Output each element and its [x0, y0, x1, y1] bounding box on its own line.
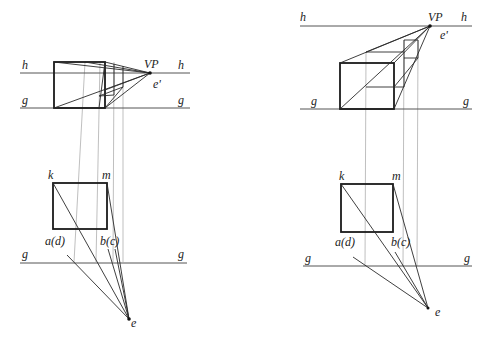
left-cube-front-face — [54, 62, 105, 108]
left-visual-rays — [53, 183, 129, 319]
left-horizon-label-right: h — [178, 58, 184, 72]
right-plan-square — [341, 184, 393, 232]
left-plan-square — [53, 183, 107, 229]
left-ground-label-right: g — [178, 93, 184, 107]
right-ground-label-right: g — [463, 94, 469, 108]
right-plan-ground-label-right: g — [464, 251, 470, 265]
left-plan-ground-label-right: g — [178, 247, 184, 261]
right-ground-label-left: g — [311, 94, 317, 108]
right-eye-point — [427, 307, 430, 310]
left-plan-ground-label-left: g — [22, 247, 28, 261]
right-horizon-label-left: h — [300, 10, 306, 24]
right-horizon-label-right: h — [461, 10, 467, 24]
right-cube-receding-lines — [340, 26, 430, 109]
left-ground-label-left: g — [22, 93, 28, 107]
left-eye-prime-label: e' — [153, 77, 161, 91]
left-cube-receding-lines — [54, 62, 150, 108]
right-ad-label: a(d) — [335, 235, 355, 249]
left-figure: h h VP e' g g k m a(d) b(c) g g e — [20, 57, 190, 330]
left-vanishing-point — [148, 71, 152, 75]
perspective-diagram: h h VP e' g g k m a(d) b(c) g g e — [0, 0, 483, 340]
right-plan-ground-label-left: g — [305, 251, 311, 265]
right-figure: h h VP e' g g k m a(d) b(c) g g e — [300, 10, 472, 319]
right-vp-label: VP — [428, 10, 443, 24]
left-bc-label: b(c) — [100, 234, 119, 248]
right-m-label: m — [392, 169, 401, 183]
left-horizon-label-left: h — [22, 58, 28, 72]
right-eye-prime-label: e' — [440, 28, 448, 42]
left-ad-label: a(d) — [45, 234, 65, 248]
right-k-label: k — [339, 169, 345, 183]
right-bc-label: b(c) — [391, 235, 410, 249]
left-k-label: k — [48, 168, 54, 182]
left-vp-label: VP — [144, 57, 159, 71]
right-vanishing-point — [428, 24, 432, 28]
right-eye-label: e — [435, 305, 441, 319]
left-eye-label: e — [131, 316, 137, 330]
left-m-label: m — [102, 168, 111, 182]
